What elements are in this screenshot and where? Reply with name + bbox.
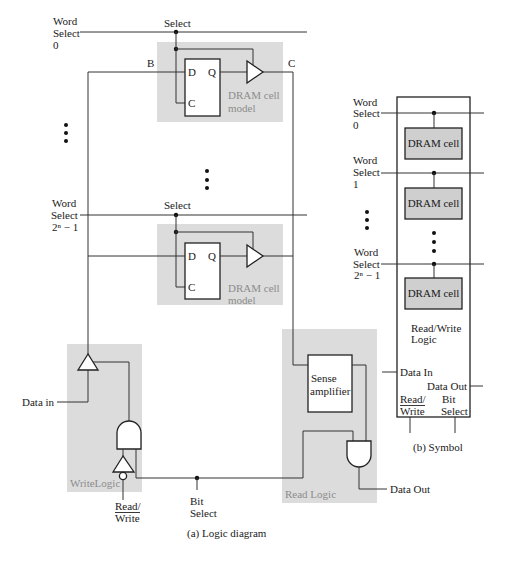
ff-d-label: D xyxy=(188,250,196,262)
word-label: Word xyxy=(354,246,379,258)
word-select-0-label: Word Select 0 xyxy=(53,15,80,51)
word-select-n-line1: Word xyxy=(52,197,77,209)
bit-select-label-line2: Select xyxy=(190,507,217,519)
symbol-read-write-line1: Read/ xyxy=(400,393,427,405)
word-select-0-line1: Word xyxy=(53,15,78,27)
ff-c-label: C xyxy=(188,281,195,293)
bit-select-label-line1: Bit xyxy=(190,495,203,507)
word-select-0-line2: Select xyxy=(53,27,80,39)
dram-cell-model-label-1: DRAM cell xyxy=(228,89,280,101)
word-select-n-label: Word Select 2ⁿ − 1 xyxy=(51,197,78,233)
select-label: Select xyxy=(164,17,191,29)
symbol-caption: (b) Symbol xyxy=(413,441,463,454)
data-out-label: Data Out xyxy=(390,483,430,495)
ff-d-label: D xyxy=(188,66,196,78)
dram-cell-model-label-2: model xyxy=(228,102,256,114)
select-label: Select xyxy=(164,199,191,211)
select-label: Select xyxy=(353,166,380,178)
symbol-dram-cell-n: DRAM cell xyxy=(405,278,462,309)
bit-line-c xyxy=(293,72,308,365)
read-and-gate-icon xyxy=(347,441,371,467)
read-logic-label: Read Logic xyxy=(285,488,336,500)
symbol-word-select-0: Word Select 0 xyxy=(353,96,484,131)
word-select-n-line2: Select xyxy=(51,209,78,221)
dram-bit-slice-figure: Word Select 0 Select D Q C DRAM cell mod… xyxy=(0,0,506,570)
node-c-label: C xyxy=(288,57,295,69)
dram-cell-label: DRAM cell xyxy=(408,137,460,149)
index-label: 0 xyxy=(353,119,359,131)
select-label: Select xyxy=(353,107,380,119)
symbol-bit-select-line2: Select xyxy=(441,405,468,417)
write-logic-label: WriteLogic xyxy=(70,477,120,489)
symbol-word-select-n: Word Select 2ⁿ − 1 xyxy=(353,246,484,281)
symbol-read-write-line2: Write xyxy=(400,405,425,417)
dram-cell-label: DRAM cell xyxy=(408,197,460,209)
symbol-dram-cell-1: DRAM cell xyxy=(405,188,462,219)
ff-c-label: C xyxy=(188,97,195,109)
symbol-data-out-label: Data Out xyxy=(427,380,467,392)
index-label: 2ⁿ − 1 xyxy=(354,269,380,281)
read-write-label-line2: Write xyxy=(115,512,140,524)
ellipsis-dots-left xyxy=(64,123,68,143)
inverter-bubble-icon xyxy=(119,472,126,479)
dram-cell-label: DRAM cell xyxy=(408,287,460,299)
word-select-0-line3: 0 xyxy=(53,39,59,51)
ff-q-label: Q xyxy=(208,250,216,262)
dram-cell-model-label-1: DRAM cell xyxy=(228,282,280,294)
symbol-bit-select-line1: Bit xyxy=(442,393,455,405)
ff-q-label: Q xyxy=(208,66,216,78)
index-label: 1 xyxy=(353,178,359,190)
node-b-label: B xyxy=(147,57,154,69)
sense-amplifier-label-line1: Sense xyxy=(311,372,337,384)
word-label: Word xyxy=(353,154,378,166)
symbol-ellipsis-dots-left xyxy=(365,210,369,230)
symbol-data-in-label: Data In xyxy=(400,366,433,378)
symbol-ellipsis-dots-inner xyxy=(432,231,436,253)
logic-diagram-caption: (a) Logic diagram xyxy=(187,527,267,540)
data-in-label: Data in xyxy=(22,396,55,408)
word-select-n-line3: 2ⁿ − 1 xyxy=(52,221,78,233)
dram-cell-model-label-2: model xyxy=(228,294,256,306)
read-write-label-line1: Read/ xyxy=(115,500,142,512)
ellipsis-dots-middle xyxy=(205,169,209,190)
read-write-logic-label-line2: Logic xyxy=(411,333,437,345)
symbol-dram-cell-0: DRAM cell xyxy=(405,128,462,159)
sense-amplifier-label-line2: amplifier xyxy=(310,385,351,397)
write-and-gate-icon xyxy=(117,421,141,449)
